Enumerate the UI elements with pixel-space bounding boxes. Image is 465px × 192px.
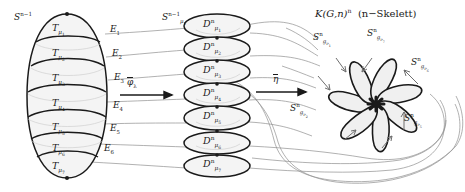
disk-label-d1: Dnμ1 xyxy=(203,19,221,34)
disk-label-d6: Dnμ6 xyxy=(203,136,221,151)
edge-label-e6: E6 xyxy=(104,144,114,155)
arrow2-head xyxy=(298,89,306,96)
edge-label-e2: E2 xyxy=(112,49,122,60)
map-label-phi-lambda: φλ xyxy=(127,77,137,89)
petal-label-nu7: Sngν7 xyxy=(367,28,385,44)
map-label-eta: η xyxy=(273,74,278,84)
disk-label-d5: Dnμ5 xyxy=(203,111,221,126)
figure-canvas: Sn−1 Tμ1 Tμ2 Tμ3 Tμ4 Tμ5 Tμ6 Tμ7 E1 E2 E… xyxy=(0,0,465,192)
petal-label-nu2: Sngν2 xyxy=(290,103,308,119)
petal-label-nu6: Sngν6 xyxy=(411,57,429,73)
cell-label-t4: Tμ4 xyxy=(52,98,65,112)
disk-label-d4: Dnμ4 xyxy=(203,88,221,103)
disk-boundary-sphere-label: Sn−1μ1 xyxy=(162,12,186,26)
disk-label-d2: Dnμ2 xyxy=(203,42,221,57)
edge-label-e3: E3 xyxy=(114,73,124,84)
page-title: K(G,n)n (n−Skelett) xyxy=(315,8,417,19)
arrow1-head xyxy=(164,92,172,99)
map-arrows xyxy=(0,0,465,192)
petal-label-nu5: Sngν5 xyxy=(404,113,422,129)
cell-label-t2: Tμ2 xyxy=(52,48,65,62)
sphere-label: Sn−1 xyxy=(14,12,32,22)
petal-label-nu1: Sngν1 xyxy=(313,32,331,48)
disk-label-d7: Dnμ7 xyxy=(203,159,221,174)
disk-label-d3: Dnμ3 xyxy=(203,65,221,80)
cell-label-t7: Tμ7 xyxy=(52,161,65,175)
cell-label-t3: Tμ3 xyxy=(52,73,65,87)
cell-label-t5: Tμ5 xyxy=(52,122,65,136)
cell-label-t6: Tμ6 xyxy=(52,143,65,157)
cell-label-t1: Tμ1 xyxy=(52,23,65,37)
edge-label-e4: E4 xyxy=(113,101,123,112)
edge-label-e1: E1 xyxy=(110,25,120,36)
edge-label-e5: E5 xyxy=(110,124,120,135)
